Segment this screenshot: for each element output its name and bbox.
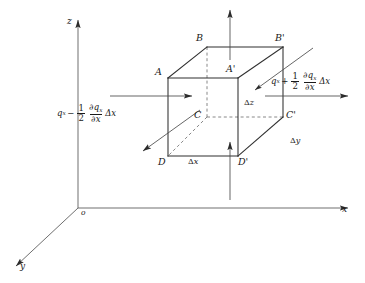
diagram-vector-layer: [0, 0, 365, 283]
flux-left-coefficient: 1 2: [77, 104, 85, 123]
flux-right-deriv-denominator: ∂x: [304, 82, 316, 92]
flux-label-left: qx − 1 2 ∂qx ∂x Δx: [57, 103, 116, 124]
flux-left-deriv-denominator: ∂x: [90, 114, 102, 124]
arrow-y-out-front: [143, 110, 200, 151]
axis-label-x: x: [342, 205, 347, 214]
flux-left-deriv-numerator: ∂qx: [88, 103, 104, 114]
flux-right-deriv-numerator: ∂qx: [302, 71, 318, 82]
origin-label: o: [81, 209, 86, 217]
vertex-label-D: D: [158, 157, 166, 167]
flux-left-deriv-num-text: ∂q: [89, 102, 99, 112]
flux-right-base-subscript: x: [276, 79, 279, 85]
flux-left-derivative: ∂qx ∂x: [88, 103, 104, 124]
edge-Cp-Dp: [238, 117, 283, 156]
edge-C-D: [168, 117, 207, 156]
delta-z-variable: z: [250, 98, 254, 107]
flux-left-operator: −: [67, 109, 74, 118]
flux-right-operator: +: [281, 77, 288, 86]
flux-left-deriv-den-text: ∂x: [91, 114, 100, 124]
vertex-label-B-prime: B': [275, 33, 285, 43]
flux-right-coeff-numerator: 1: [291, 72, 299, 81]
flux-arrows: [110, 10, 348, 200]
y-axis: [16, 208, 78, 266]
vertex-label-C: C: [194, 110, 201, 120]
flux-right-tail: Δx: [319, 77, 330, 86]
vertex-label-A: A: [155, 67, 162, 77]
flux-left-deriv-num-sub: x: [99, 107, 102, 113]
flux-left-coeff-numerator: 1: [77, 104, 85, 113]
dimension-label-delta-y: Δy: [290, 137, 300, 145]
vertex-label-D-prime: D': [238, 157, 248, 167]
dimension-label-delta-z: Δz: [244, 99, 254, 107]
flux-right-deriv-den-text: ∂x: [305, 82, 314, 92]
flux-left-base-subscript: x: [62, 111, 65, 117]
flux-right-deriv-num-text: ∂q: [303, 70, 313, 80]
flux-right-deriv-num-sub: x: [313, 75, 316, 81]
vertex-label-A-prime: A': [226, 64, 235, 74]
flux-left-tail: Δx: [105, 109, 116, 118]
delta-x-variable: x: [194, 157, 199, 166]
flux-right-coeff-denominator: 2: [291, 81, 299, 91]
flux-right-coefficient: 1 2: [291, 72, 299, 91]
vertex-label-C-prime: C': [286, 110, 296, 120]
axis-label-z: z: [67, 17, 72, 26]
edge-A-B: [168, 47, 207, 78]
dimension-label-delta-x: Δx: [188, 158, 198, 166]
vertex-label-B: B: [196, 33, 203, 43]
flux-label-right: qx + 1 2 ∂qx ∂x Δx: [271, 71, 330, 92]
flux-right-derivative: ∂qx ∂x: [302, 71, 318, 92]
delta-y-variable: y: [296, 136, 301, 145]
flux-left-coeff-denominator: 2: [77, 113, 85, 123]
axis-label-y: y: [20, 262, 25, 271]
figure-canvas: A A' B B' C C' D D' z x y o Δx Δy Δz qx …: [0, 0, 365, 283]
